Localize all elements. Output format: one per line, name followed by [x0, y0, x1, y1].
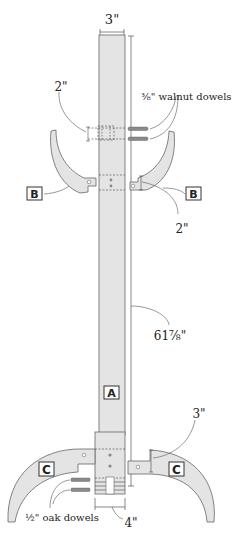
arm-dowel-hole-1	[110, 179, 113, 182]
b-right-leader	[163, 188, 185, 194]
bottom-width-dimension	[95, 498, 125, 510]
bottom-width-label: 4"	[124, 516, 137, 530]
b-left-leader	[44, 186, 69, 194]
walnut-dowels-label: ⅜" walnut dowels	[141, 91, 232, 102]
part-b-right-text: B	[189, 188, 197, 201]
arm-dowel-hole-2	[110, 185, 113, 188]
bottom-width-leader	[112, 507, 123, 519]
oak-dowel-leader	[50, 480, 70, 508]
arm-b-left-hole	[87, 180, 91, 184]
foot-c-right	[128, 450, 214, 522]
top-width-label: 3"	[105, 12, 119, 27]
top-dowel-spacing-label: 2"	[54, 80, 67, 94]
part-c-left-text: C	[42, 463, 51, 477]
oak-dowels-label: ½" oak dowels	[25, 512, 99, 523]
foot-height-label: 3"	[192, 407, 205, 421]
top-2in-leader	[59, 92, 86, 132]
oak-dowels	[71, 478, 90, 492]
foot-c-left-hole	[82, 453, 86, 457]
arm-b-right-hole	[131, 184, 135, 188]
coat-rack-diagram: B B A C C 3" 2" ⅜" walnut dowels 2" 61⅞"…	[0, 0, 247, 546]
arm-offset-label: 2"	[175, 222, 188, 236]
post-a	[99, 35, 125, 435]
part-c-right-text: C	[172, 463, 181, 477]
post-height-leader	[131, 306, 169, 325]
post-height-label: 61⅞"	[154, 329, 186, 343]
foot-c-right-hole	[136, 465, 140, 469]
top-width-dimension	[100, 29, 124, 35]
height-dimension-line	[128, 36, 134, 486]
part-b-left-text: B	[30, 188, 38, 201]
part-a-text: A	[107, 387, 116, 400]
